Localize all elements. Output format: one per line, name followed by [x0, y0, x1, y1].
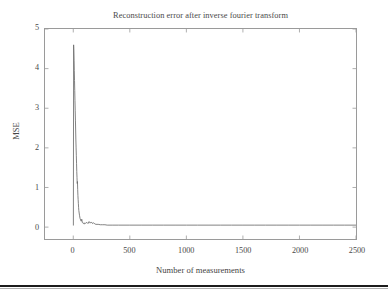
y-tick-label: 1	[13, 183, 39, 192]
plot-svg	[45, 29, 356, 239]
figure-canvas: Reconstruction error after inverse fouri…	[0, 0, 388, 294]
x-tick-label: 0	[52, 246, 92, 255]
page-divider-rule	[0, 285, 388, 287]
x-axis-title: Number of measurements	[44, 265, 357, 275]
page-divider-rule-shadow	[0, 288, 388, 289]
data-series-line	[73, 45, 356, 225]
x-tick-label: 1000	[166, 246, 206, 255]
x-tick-label: 2000	[280, 246, 320, 255]
x-tick-label: 500	[109, 246, 149, 255]
chart-title: Reconstruction error after inverse fouri…	[44, 11, 357, 20]
tick-marks	[45, 29, 356, 239]
x-tick-label: 1500	[223, 246, 263, 255]
y-tick-label: 0	[13, 223, 39, 232]
y-tick-label: 4	[13, 63, 39, 72]
x-tick-label: 2500	[337, 246, 377, 255]
y-axis-title: MSE	[11, 107, 21, 155]
plot-area	[44, 28, 357, 240]
y-tick-label: 5	[13, 23, 39, 32]
